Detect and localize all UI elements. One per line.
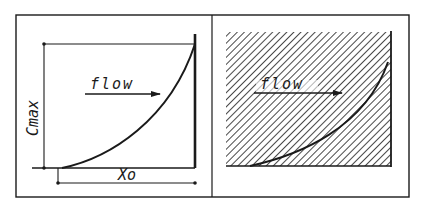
concentration-curve (62, 44, 195, 168)
cmax-top-dot (42, 42, 46, 46)
xo-left-dot (56, 181, 60, 185)
flow-label-right: flow (260, 75, 304, 93)
left-panel: flow Cmax Xo (24, 34, 197, 185)
diagram-canvas: flow Cmax Xo flow (0, 0, 423, 207)
right-panel: flow (226, 31, 391, 167)
xo-label: Xo (117, 166, 136, 184)
flow-label-left: flow (90, 75, 134, 93)
xo-right-dot (193, 181, 197, 185)
cmax-label: Cmax (24, 100, 42, 136)
